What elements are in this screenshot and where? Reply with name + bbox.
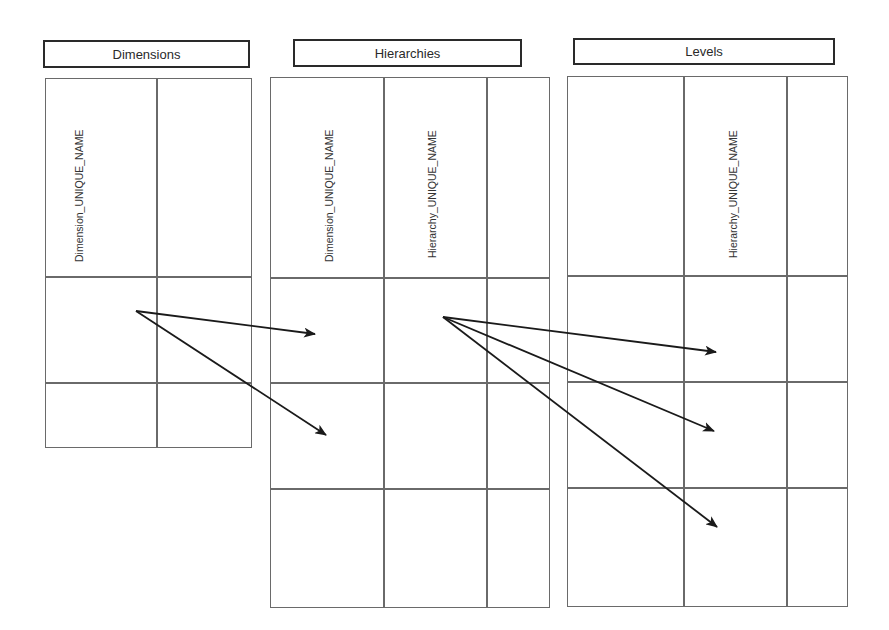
dimensions-header-cell-2 (156, 78, 252, 278)
dimensions-row1-cell-2 (156, 276, 252, 384)
levels-header-cell-3 (786, 76, 848, 277)
hierarchies-row3-cell-2 (383, 488, 488, 608)
hierarchies-column-header-hierarchy-unique-name: Hierarchy_UNIQUE_NAME (426, 130, 438, 258)
hierarchies-row2-cell-2 (383, 382, 488, 490)
levels-row3-cell-1 (567, 487, 685, 607)
levels-title: Levels (573, 38, 835, 65)
dimensions-header-cell-1 (45, 78, 158, 278)
levels-column-header-hierarchy-unique-name: Hierarchy_UNIQUE_NAME (727, 130, 739, 258)
levels-row2-cell-1 (567, 381, 685, 489)
hierarchies-title: Hierarchies (293, 39, 522, 67)
hierarchies-row2-cell-1 (270, 382, 385, 490)
levels-row3-cell-2 (683, 487, 788, 607)
dimensions-row1-cell-1 (45, 276, 158, 384)
levels-row3-cell-3 (786, 487, 848, 607)
levels-header-cell-1 (567, 76, 685, 277)
levels-row2-cell-2 (683, 381, 788, 489)
hierarchies-row1-cell-1 (270, 277, 385, 384)
hierarchies-header-cell-3 (486, 77, 550, 279)
hierarchies-row1-cell-2 (383, 277, 488, 384)
levels-row1-cell-1 (567, 275, 685, 383)
dimensions-row2-cell-2 (156, 382, 252, 448)
dimensions-title: Dimensions (43, 40, 250, 68)
hierarchies-row3-cell-1 (270, 488, 385, 608)
dimensions-row2-cell-1 (45, 382, 158, 448)
dimensions-column-header-dimension-unique-name: Dimension_UNIQUE_NAME (73, 130, 85, 262)
hierarchies-column-header-dimension-unique-name: Dimension_UNIQUE_NAME (323, 130, 335, 262)
levels-row2-cell-3 (786, 381, 848, 489)
hierarchies-row3-cell-3 (486, 488, 550, 608)
levels-row1-cell-2 (683, 275, 788, 383)
levels-row1-cell-3 (786, 275, 848, 383)
levels-table (567, 76, 848, 607)
hierarchies-table (270, 77, 550, 608)
hierarchies-row2-cell-3 (486, 382, 550, 490)
hierarchies-row1-cell-3 (486, 277, 550, 384)
